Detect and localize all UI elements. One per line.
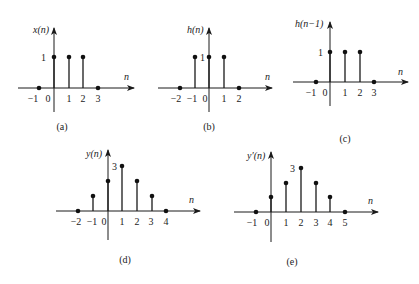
y-axis-label: h(n−1) bbox=[295, 18, 324, 30]
svg-text:4: 4 bbox=[328, 217, 333, 228]
y-axis-label: y(n) bbox=[85, 148, 103, 160]
svg-text:−2: −2 bbox=[171, 93, 182, 104]
panel-c: h(n−1) n 1 −1 0 1 2 3 (c) bbox=[293, 18, 408, 145]
svg-text:2: 2 bbox=[358, 87, 363, 98]
x-tick-labels: −1 0 1 2 3 bbox=[28, 93, 101, 104]
y-axis-label: h(n) bbox=[187, 24, 204, 36]
svg-text:5: 5 bbox=[343, 217, 348, 228]
svg-text:1: 1 bbox=[284, 217, 289, 228]
svg-text:3: 3 bbox=[96, 93, 101, 104]
y-axis-label: x(n) bbox=[32, 24, 50, 36]
caption: (d) bbox=[119, 254, 131, 266]
svg-text:3: 3 bbox=[372, 87, 377, 98]
convolution-stem-figure: x(n) n 1 −1 0 1 2 3 (a) h(n) n 1 bbox=[0, 0, 419, 284]
svg-text:2: 2 bbox=[135, 216, 140, 227]
stems bbox=[254, 166, 348, 215]
svg-text:3: 3 bbox=[314, 217, 319, 228]
svg-text:−1: −1 bbox=[306, 87, 317, 98]
svg-text:0: 0 bbox=[265, 217, 270, 228]
svg-text:2: 2 bbox=[81, 93, 86, 104]
x-tick-labels: −1 0 1 2 3 4 5 bbox=[247, 217, 348, 228]
y-tick-label: 1 bbox=[41, 52, 46, 63]
caption: (c) bbox=[339, 133, 350, 145]
x-tick-labels: −1 0 1 2 3 bbox=[306, 87, 377, 98]
svg-text:−1: −1 bbox=[28, 93, 39, 104]
x-axis-label: n bbox=[398, 66, 403, 77]
y-axis-label: y′(n) bbox=[246, 150, 266, 162]
stems bbox=[76, 164, 169, 214]
x-tick-labels: −2 −1 0 1 2 bbox=[171, 93, 242, 104]
x-axis-label: n bbox=[265, 71, 270, 82]
svg-text:4: 4 bbox=[164, 216, 169, 227]
panel-b: h(n) n 1 −2 −1 0 1 2 (b) bbox=[158, 24, 272, 133]
y-tick-label: 3 bbox=[290, 163, 295, 174]
caption: (a) bbox=[56, 121, 67, 133]
stems bbox=[314, 50, 377, 85]
svg-text:−1: −1 bbox=[87, 216, 98, 227]
svg-text:2: 2 bbox=[299, 217, 304, 228]
stems bbox=[37, 55, 101, 91]
svg-text:2: 2 bbox=[237, 93, 242, 104]
svg-text:3: 3 bbox=[149, 216, 154, 227]
x-axis-label: n bbox=[124, 71, 129, 82]
panel-d: y(n) n 3 −2 −1 0 1 2 3 4 (d) bbox=[56, 148, 200, 266]
stems bbox=[178, 55, 242, 91]
caption: (e) bbox=[286, 256, 297, 268]
svg-text:−1: −1 bbox=[187, 93, 198, 104]
svg-text:−1: −1 bbox=[247, 217, 258, 228]
y-tick-label: 1 bbox=[200, 52, 205, 63]
x-tick-labels: −2 −1 0 1 2 3 4 bbox=[71, 216, 169, 227]
x-axis-label: n bbox=[189, 194, 194, 205]
svg-text:0: 0 bbox=[46, 93, 51, 104]
svg-text:1: 1 bbox=[67, 93, 72, 104]
panel-a: x(n) n 1 −1 0 1 2 3 (a) bbox=[18, 24, 134, 133]
svg-text:0: 0 bbox=[323, 87, 328, 98]
svg-text:0: 0 bbox=[102, 216, 107, 227]
svg-text:−2: −2 bbox=[71, 216, 82, 227]
svg-text:0: 0 bbox=[203, 93, 208, 104]
panel-e: y′(n) n 3 −1 0 1 2 3 4 5 (e) bbox=[234, 150, 378, 268]
caption: (b) bbox=[203, 121, 215, 133]
svg-text:1: 1 bbox=[222, 93, 227, 104]
x-axis-label: n bbox=[368, 195, 373, 206]
y-tick-label: 1 bbox=[318, 47, 323, 58]
svg-text:1: 1 bbox=[120, 216, 125, 227]
y-tick-label: 3 bbox=[112, 161, 117, 172]
svg-text:1: 1 bbox=[343, 87, 348, 98]
